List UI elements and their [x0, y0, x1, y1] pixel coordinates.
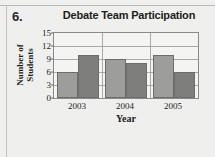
- x-tick-label: 2003: [68, 101, 86, 111]
- x-tick-label: 2004: [116, 101, 134, 111]
- x-axis-label: Year: [53, 113, 199, 124]
- plot-area: 03691215: [53, 32, 199, 99]
- bar-series: [54, 33, 198, 98]
- y-tick-label: 12: [42, 41, 51, 51]
- bar: [105, 59, 126, 98]
- bar: [126, 63, 147, 98]
- question-number: 6.: [12, 9, 22, 24]
- chart-title: Debate Team Participation: [50, 9, 208, 21]
- y-axis-label: Number of Students: [10, 30, 40, 100]
- y-tick-label: 15: [42, 28, 51, 38]
- x-tick-label: 2005: [164, 101, 182, 111]
- bar: [174, 72, 195, 98]
- page-rule-left: [6, 5, 7, 157]
- worksheet-page: 6. Debate Team Participation Number of S…: [0, 0, 215, 157]
- bar: [153, 55, 174, 98]
- page-rule-top: [0, 5, 215, 6]
- bar: [78, 55, 99, 98]
- y-axis-label-line-1: Number of: [15, 30, 25, 100]
- y-axis-label-line-2: Students: [25, 30, 35, 100]
- bar: [57, 72, 78, 98]
